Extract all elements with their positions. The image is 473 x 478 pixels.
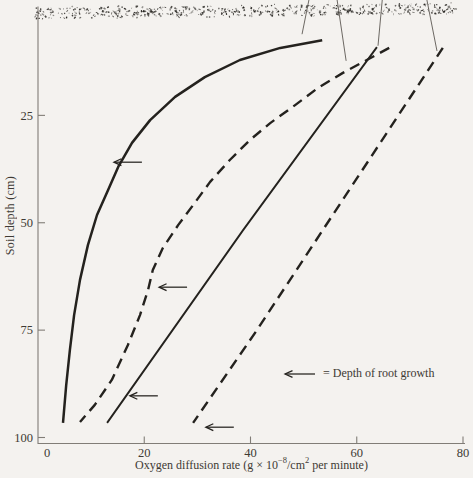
x-axis-title-exponent-2: 2 [305,455,309,465]
chart-canvas: 020406080255075100 [0,0,473,478]
root-depth-legend: = Depth of root growth [283,366,434,381]
y-tick-label: 25 [21,109,34,123]
leader-line [378,0,382,46]
soil-oxygen-diffusion-figure: 020406080255075100 Soil depth (cm) Oxyge… [0,0,473,478]
root-depth-arrow-curve-4 [206,424,234,431]
leader-lines [302,0,437,61]
leader-line [302,0,309,34]
y-axis-title-text: Soil depth (cm) [3,176,17,255]
x-axis-title-text-end: per minute) [309,458,368,472]
y-tick-label: 75 [21,323,34,337]
root-depth-arrow-curve-3 [130,392,158,399]
y-tick-label: 100 [14,431,33,445]
soil-surface-band [34,2,457,19]
left-arrow-icon [283,369,316,379]
x-axis-title-text: Oxygen diffusion rate (g × 10 [135,458,278,472]
y-axis-title: Soil depth (cm) [3,176,18,255]
root-depth-arrow-curve-1 [114,159,142,166]
x-axis-title: Oxygen diffusion rate (g × 10−8/cm2 per … [38,456,465,473]
legend-label: = Depth of root growth [323,366,434,381]
y-tick-label: 50 [21,216,34,230]
x-axis-title-exponent: −8 [278,455,287,465]
x-axis-title-text-mid: /cm [287,458,305,472]
root-depth-arrow-curve-2 [159,284,187,291]
